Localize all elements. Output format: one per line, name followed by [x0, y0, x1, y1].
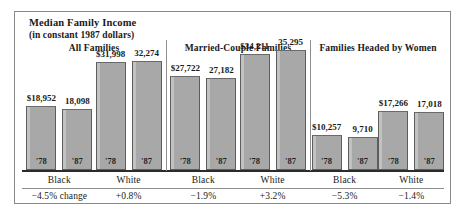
bar: '78	[378, 111, 408, 170]
bar: '78	[312, 135, 342, 170]
bar-value-label: 17,018	[407, 99, 451, 109]
bar-year-label: '87	[133, 156, 161, 166]
bar-year-label: '87	[207, 156, 235, 166]
bar-value-label: 18,098	[55, 96, 99, 106]
group-label: White	[378, 175, 444, 185]
panel-divider-1	[166, 40, 167, 171]
bar: '87	[132, 61, 162, 170]
panel-heading-3: Families Headed by Women	[311, 43, 445, 53]
bar-year-label: '78	[241, 156, 269, 166]
bar: '78	[170, 76, 200, 170]
axis-baseline	[22, 170, 444, 172]
bar-year-label: '78	[27, 156, 55, 166]
bar: '87	[276, 50, 306, 170]
bar-year-label: '87	[415, 156, 443, 166]
chart-subtitle: (in constant 1987 dollars)	[29, 30, 136, 42]
page-title: Median Family Income	[29, 17, 136, 30]
bar-year-label: '78	[171, 156, 199, 166]
label-divider-rule	[22, 188, 444, 189]
bar-year-label: '78	[313, 156, 341, 166]
group-label: Black	[170, 175, 236, 185]
bar: '78	[96, 62, 126, 170]
bar-year-label: '78	[97, 156, 125, 166]
bar: '87	[62, 109, 92, 170]
bar-value-label: 27,182	[199, 65, 243, 75]
bar-value-label: 35,295	[269, 37, 313, 47]
group-label: White	[240, 175, 306, 185]
bar-value-label: 32,274	[125, 48, 169, 58]
group-label: Black	[312, 175, 378, 185]
group-change-annotation: −1.4%	[356, 191, 466, 201]
bar: '78	[26, 106, 56, 170]
chart-frame: Median Family Income (in constant 1987 d…	[14, 11, 451, 204]
bar: '87	[414, 112, 444, 170]
bar: '87	[348, 137, 378, 170]
bar: '87	[206, 78, 236, 170]
bar-year-label: '87	[63, 156, 91, 166]
group-label: Black	[26, 175, 92, 185]
bar-year-label: '87	[277, 156, 305, 166]
bar-year-label: '87	[349, 156, 377, 166]
chart-title-block: Median Family Income (in constant 1987 d…	[29, 17, 136, 41]
bar: '78	[240, 54, 270, 170]
group-label: White	[96, 175, 162, 185]
bar-year-label: '78	[379, 156, 407, 166]
